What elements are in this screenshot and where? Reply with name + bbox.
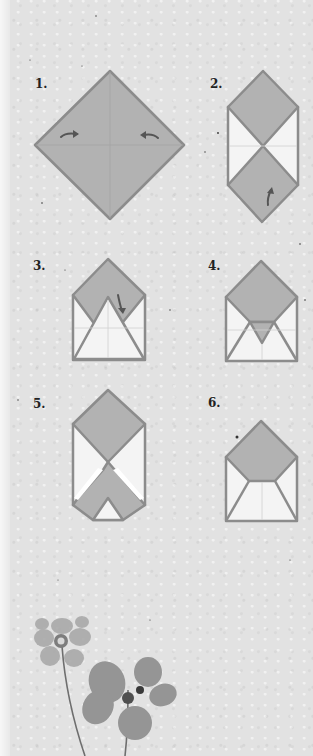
folding-diagrams bbox=[0, 0, 313, 756]
step-2-diagram bbox=[228, 71, 298, 222]
pressed-flowers-decoration bbox=[34, 616, 180, 756]
step-1-diagram bbox=[35, 71, 184, 219]
pansy-flower bbox=[76, 656, 180, 756]
step-5-diagram bbox=[73, 390, 145, 520]
clover-flower bbox=[34, 616, 91, 756]
step-4-diagram bbox=[226, 261, 297, 361]
step-3-diagram bbox=[73, 259, 145, 360]
instruction-page: 1. 2. 3. 4. 5. 6. bbox=[0, 0, 313, 756]
